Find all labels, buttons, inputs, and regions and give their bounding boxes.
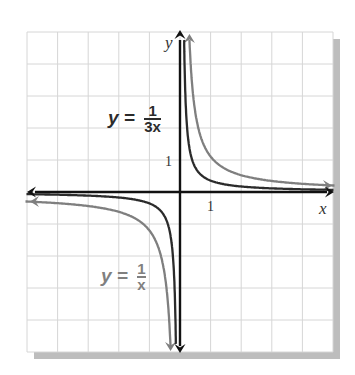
x-axis-label: x — [319, 199, 327, 219]
eq2-lhs: y = — [101, 265, 128, 286]
x-tick-label: 1 — [207, 199, 214, 215]
equation-label-one-over-x: y = 1 x — [101, 262, 146, 292]
eq2-denominator: x — [137, 276, 145, 292]
chart-canvas — [0, 0, 355, 375]
y-axis-label: y — [165, 33, 173, 53]
eq1-fraction: 1 3x — [144, 104, 161, 134]
y-tick-label: 1 — [165, 154, 172, 170]
equation-label-one-third-x: y = 1 3x — [108, 104, 161, 134]
eq2-fraction: 1 x — [137, 262, 145, 292]
eq2-numerator: 1 — [137, 262, 145, 276]
eq1-lhs: y = — [108, 107, 135, 128]
eq1-numerator: 1 — [144, 104, 161, 118]
eq1-denominator: 3x — [144, 118, 161, 134]
